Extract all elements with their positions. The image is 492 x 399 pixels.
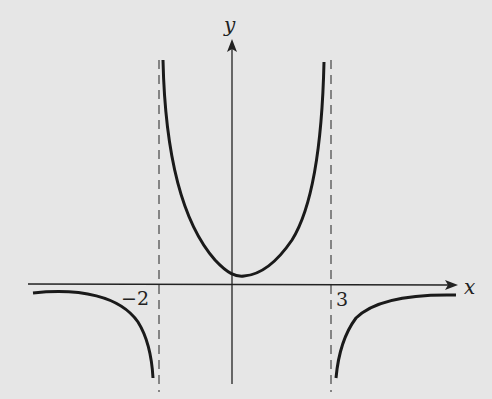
y-axis-label: y — [223, 13, 236, 37]
function-graph: y x −2 3 — [0, 0, 492, 399]
curve-middle-branch — [163, 60, 324, 276]
x-axis — [28, 284, 450, 285]
tick-label-3: 3 — [336, 288, 348, 310]
tick-label-neg2: −2 — [121, 287, 149, 309]
curve-right-branch — [336, 295, 456, 378]
x-axis-label: x — [464, 275, 475, 299]
